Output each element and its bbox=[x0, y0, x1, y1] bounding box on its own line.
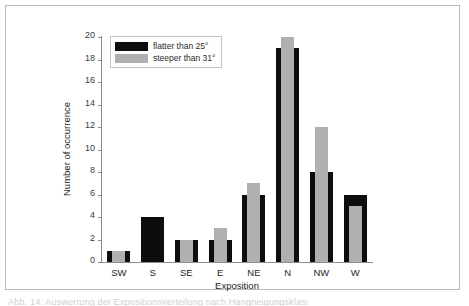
figure-caption-sliver: Abb. 14: Auswertung der Expositionsverte… bbox=[8, 297, 308, 306]
bar-steeper-ne bbox=[247, 183, 260, 262]
x-axis-title: Exposition bbox=[101, 280, 373, 291]
y-tick-label: 4 bbox=[90, 210, 95, 220]
y-tick-label: 2 bbox=[90, 233, 95, 243]
bar-group-se bbox=[170, 37, 204, 262]
bar-group-n bbox=[271, 37, 305, 262]
y-tick-label: 20 bbox=[85, 30, 95, 40]
bar-steeper-nw bbox=[315, 127, 328, 262]
figure-frame: Number of occurrence 02468101214161820 E… bbox=[5, 5, 460, 290]
legend-label-flatter: flatter than 25° bbox=[153, 41, 208, 51]
y-tick-label: 16 bbox=[85, 75, 95, 85]
bar-steeper-w bbox=[349, 206, 362, 262]
bar-group-s bbox=[136, 37, 170, 262]
legend-label-steeper: steeper than 31° bbox=[153, 53, 215, 63]
y-tick-mark bbox=[98, 262, 102, 263]
y-tick-label: 8 bbox=[90, 165, 95, 175]
y-tick-label: 18 bbox=[85, 53, 95, 63]
bar-steeper-sw bbox=[112, 251, 125, 262]
bar-group-nw bbox=[305, 37, 339, 262]
bar-steeper-e bbox=[214, 228, 227, 262]
plot-area: 02468101214161820 bbox=[102, 37, 372, 262]
legend-swatch-steeper-icon bbox=[115, 54, 148, 63]
bar-flatter-s bbox=[141, 217, 164, 262]
y-tick-label: 14 bbox=[85, 98, 95, 108]
bar-steeper-n bbox=[281, 37, 294, 262]
y-tick-label: 6 bbox=[90, 188, 95, 198]
bar-group-sw bbox=[102, 37, 136, 262]
bar-steeper-se bbox=[180, 240, 193, 263]
x-tick-label-w: W bbox=[335, 267, 375, 278]
legend-item-flatter: flatter than 25° bbox=[115, 40, 217, 52]
y-tick-label: 12 bbox=[85, 120, 95, 130]
y-tick-label: 0 bbox=[90, 255, 95, 265]
bar-group-e bbox=[203, 37, 237, 262]
bar-group-ne bbox=[237, 37, 271, 262]
bar-group-w bbox=[338, 37, 372, 262]
y-axis-title-text: Number of occurrence bbox=[61, 102, 72, 196]
legend-swatch-flatter-icon bbox=[115, 42, 148, 51]
y-tick-label: 10 bbox=[85, 143, 95, 153]
x-axis-line bbox=[101, 262, 373, 263]
chart-legend: flatter than 25° steeper than 31° bbox=[110, 36, 222, 68]
legend-item-steeper: steeper than 31° bbox=[115, 52, 217, 64]
